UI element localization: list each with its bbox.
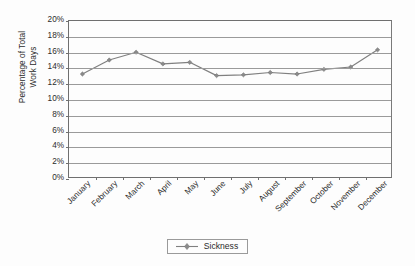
legend-line-marker-icon bbox=[175, 242, 199, 251]
y-tick-label: 4% bbox=[34, 142, 64, 150]
y-tick-label: 12% bbox=[34, 79, 64, 87]
legend-item-sickness: Sickness bbox=[167, 239, 248, 254]
gridline bbox=[69, 132, 391, 133]
gridline bbox=[69, 100, 391, 101]
y-tick-label: 18% bbox=[34, 32, 64, 40]
series-line-sickness bbox=[82, 50, 377, 76]
data-point-january bbox=[80, 72, 84, 76]
y-tick-mark bbox=[66, 147, 69, 148]
y-tick-label: 16% bbox=[34, 47, 64, 55]
legend-label-sickness: Sickness bbox=[204, 242, 238, 251]
y-tick-label: 14% bbox=[34, 63, 64, 71]
y-tick-label: 10% bbox=[34, 95, 64, 103]
y-tick-mark bbox=[66, 100, 69, 101]
gridline bbox=[69, 84, 391, 85]
gridline bbox=[69, 53, 391, 54]
plot-area bbox=[68, 20, 392, 178]
y-tick-label: 0% bbox=[34, 174, 64, 182]
y-tick-label: 20% bbox=[34, 16, 64, 24]
series-sickness bbox=[69, 21, 391, 177]
data-point-february bbox=[107, 58, 111, 62]
y-axis-tick-labels: 0%2%4%6%8%10%12%14%16%18%20% bbox=[34, 20, 64, 178]
gridline bbox=[69, 68, 391, 69]
y-tick-mark bbox=[66, 84, 69, 85]
y-tick-label: 2% bbox=[34, 158, 64, 166]
data-point-april bbox=[161, 62, 165, 66]
x-axis-tick-labels: JanuaryFebruaryMarchAprilMayJuneJulyAugu… bbox=[68, 179, 392, 237]
data-point-may bbox=[188, 60, 192, 64]
y-tick-label: 6% bbox=[34, 126, 64, 134]
data-point-july bbox=[241, 73, 245, 77]
y-tick-mark bbox=[66, 68, 69, 69]
chart-legend: Sickness bbox=[0, 239, 415, 254]
y-tick-mark bbox=[66, 132, 69, 133]
y-tick-mark bbox=[66, 21, 69, 22]
y-axis-title-line-1: Percentage of Total bbox=[18, 0, 29, 137]
data-point-august bbox=[268, 70, 272, 74]
sickness-line-chart: Percentage of Total Work Days 0%2%4%6%8%… bbox=[0, 0, 415, 266]
gridline bbox=[69, 116, 391, 117]
data-point-june bbox=[214, 73, 218, 77]
data-point-september bbox=[295, 72, 299, 76]
gridline bbox=[69, 147, 391, 148]
gridline bbox=[69, 163, 391, 164]
y-tick-label: 8% bbox=[34, 111, 64, 119]
y-tick-mark bbox=[66, 53, 69, 54]
y-tick-mark bbox=[66, 163, 69, 164]
gridline bbox=[69, 37, 391, 38]
y-tick-mark bbox=[66, 37, 69, 38]
y-tick-mark bbox=[66, 116, 69, 117]
